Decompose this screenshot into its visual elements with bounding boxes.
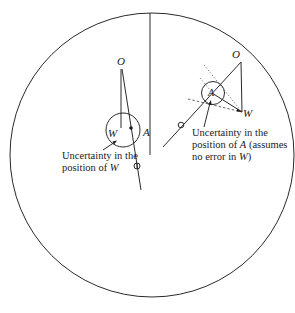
- left-label-O: O: [117, 55, 125, 67]
- left-point-A-dot: [129, 126, 133, 130]
- right-caption-text: position of: [192, 139, 238, 150]
- right-leader-arrowhead: [208, 100, 212, 105]
- left-caption-line1: Uncertainty in the: [62, 150, 138, 161]
- right-label-W: W: [243, 107, 253, 119]
- left-caption-var: W: [110, 162, 120, 173]
- right-figure: O A W Uncertainty in the position of A (…: [163, 48, 287, 163]
- diagram-canvas: O W A Uncertainty in the position of W O: [0, 0, 295, 313]
- right-line-O-W: [241, 62, 242, 112]
- left-label-W: W: [108, 127, 118, 139]
- right-dashed-bound-lower: [188, 99, 242, 112]
- right-label-O: O: [232, 48, 240, 60]
- left-figure: O W A Uncertainty in the position of W: [62, 55, 150, 190]
- left-caption-line2: position of W: [62, 162, 120, 173]
- right-caption-tail: (assumes: [246, 139, 287, 151]
- right-leader-line: [204, 103, 210, 127]
- right-caption-line3: no error in W): [192, 151, 252, 163]
- left-label-A: A: [142, 126, 150, 138]
- right-caption-line2: position of A (assumes: [192, 139, 287, 151]
- right-caption-line3-text: no error in: [192, 151, 237, 162]
- left-leader-line: [103, 142, 115, 150]
- right-caption-line3-tail: ): [248, 151, 252, 163]
- right-caption-line1: Uncertainty in the: [192, 127, 268, 138]
- left-caption-text: position of: [62, 162, 108, 173]
- outer-field-circle: [10, 13, 294, 297]
- right-label-A: A: [207, 87, 215, 98]
